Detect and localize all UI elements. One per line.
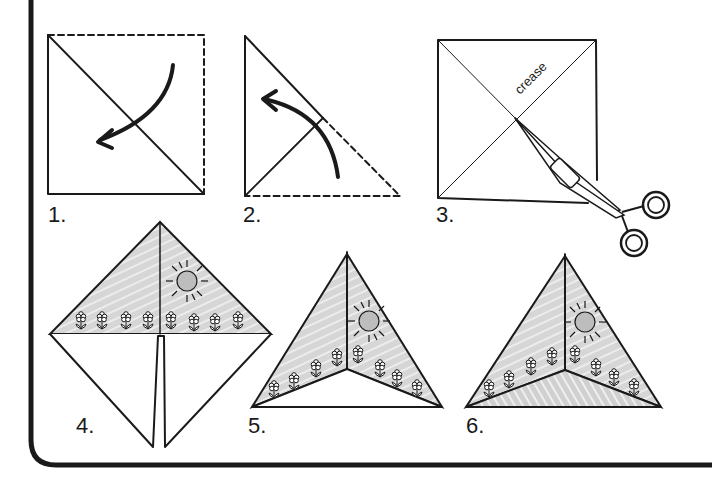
folding-diagram: 1. 2. crease 3. — [0, 0, 712, 485]
step-6: 6. — [466, 256, 661, 438]
step-4-label: 4. — [76, 413, 94, 438]
step-2-label: 2. — [243, 202, 261, 227]
step-4: 4. — [50, 222, 271, 447]
step-5: 5. — [248, 254, 442, 438]
step-3: crease 3. — [436, 40, 669, 256]
step-1-label: 1. — [48, 202, 66, 227]
step-5-label: 5. — [248, 413, 266, 438]
step-3-label: 3. — [436, 202, 454, 227]
step-2: 2. — [243, 36, 400, 227]
scissors-icon — [515, 118, 669, 256]
step-6-label: 6. — [466, 413, 484, 438]
step-1: 1. — [48, 35, 204, 227]
